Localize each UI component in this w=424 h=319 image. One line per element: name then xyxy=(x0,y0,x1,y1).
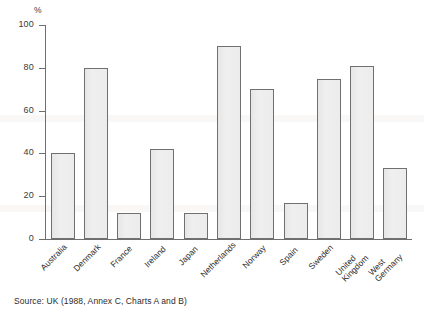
y-axis-tick-label: 20 xyxy=(0,191,34,200)
bar-fill xyxy=(118,214,140,238)
bar-fill xyxy=(218,47,240,238)
bar-fill xyxy=(285,204,307,238)
y-axis-tick-label: 100 xyxy=(0,20,34,29)
x-axis-label-united-kingdom: UnitedKingdom xyxy=(334,247,370,283)
bar-west-germany[interactable] xyxy=(383,168,407,239)
y-axis-tick xyxy=(39,111,46,112)
x-axis-label-japan: Japan xyxy=(177,245,200,268)
bar-norway[interactable] xyxy=(250,89,274,239)
bar-netherlands[interactable] xyxy=(217,46,241,239)
y-axis-tick xyxy=(39,153,46,154)
bar-japan[interactable] xyxy=(184,213,208,239)
bar-denmark[interactable] xyxy=(84,68,108,239)
bar-ireland[interactable] xyxy=(150,149,174,239)
bar-fill xyxy=(351,67,373,238)
y-axis-tick xyxy=(39,196,46,197)
x-axis-label-australia: Australia xyxy=(39,243,69,273)
y-axis-tick-label: 80 xyxy=(0,63,34,72)
y-axis-tick-label: 60 xyxy=(0,106,34,115)
x-axis-label-spain: Spain xyxy=(278,245,300,267)
bar-fill xyxy=(318,80,340,239)
bar-fill xyxy=(251,90,273,238)
bar-fill xyxy=(151,150,173,238)
bar-fill xyxy=(85,69,107,238)
x-axis-label-france: France xyxy=(109,244,134,269)
x-axis-label-denmark: Denmark xyxy=(72,243,103,274)
y-axis-unit-label: % xyxy=(34,6,42,15)
plot-area xyxy=(46,25,412,239)
bar-fill xyxy=(384,169,406,238)
bar-fill xyxy=(52,154,74,238)
bar-fill xyxy=(185,214,207,238)
bar-france[interactable] xyxy=(117,213,141,239)
bar-chart: % 100806040200 AustraliaDenmarkFranceIre… xyxy=(0,0,424,319)
bar-australia[interactable] xyxy=(51,153,75,239)
x-axis-label-sweden: Sweden xyxy=(307,243,335,271)
bar-sweden[interactable] xyxy=(317,79,341,240)
bar-united-kingdom[interactable] xyxy=(350,66,374,239)
x-axis-line xyxy=(45,239,412,240)
y-axis-tick-label: 40 xyxy=(0,148,34,157)
x-axis-label-ireland: Ireland xyxy=(143,244,168,269)
y-axis-tick xyxy=(39,68,46,69)
y-axis-tick xyxy=(39,239,46,240)
bar-spain[interactable] xyxy=(284,203,308,239)
source-note: Source: UK (1988, Annex C, Charts A and … xyxy=(14,296,187,306)
x-axis-label-west-germany: WestGermany xyxy=(367,247,404,284)
y-axis-tick xyxy=(39,25,46,26)
x-axis-label-netherlands: Netherlands xyxy=(199,240,238,279)
y-axis-tick-label: 0 xyxy=(0,234,34,243)
x-axis-label-norway: Norway xyxy=(241,244,268,271)
